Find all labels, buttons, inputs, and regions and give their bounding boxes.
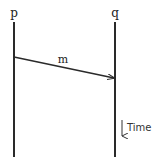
space-time-diagram: p q m Time xyxy=(0,0,158,167)
message-m-label: m xyxy=(58,53,69,66)
process-p-label: p xyxy=(10,6,18,20)
time-axis-label: Time xyxy=(126,122,151,133)
process-q-label: q xyxy=(111,6,119,20)
